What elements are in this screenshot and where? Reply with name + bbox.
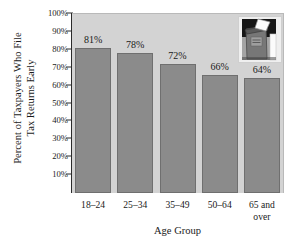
x-axis-category-label-line: over [237,211,287,223]
y-axis-tick-label: 100% [34,9,68,18]
x-axis-category-label-line: 65 and [237,199,287,211]
x-axis-title: Age Group [72,225,283,237]
bar-value-label: 78% [114,39,156,50]
y-axis-tick-label: 20% [34,152,68,161]
bar [202,75,238,193]
x-axis-category-label: 65 andover [237,199,287,222]
y-axis-tick-label: 90% [34,26,68,35]
y-axis-tick-label: 30% [34,134,68,143]
bar [75,48,111,193]
bar-value-label: 72% [156,50,198,61]
y-axis-tick-label: 10% [34,170,68,179]
mailbox-photo [238,16,282,63]
y-axis-tick-label: 70% [34,62,68,71]
bar [160,64,196,193]
y-axis-tick-label: 50% [34,98,68,107]
bar-value-label: 66% [199,61,241,72]
bar [117,53,153,193]
bar-chart-figure: Percent of Taxpayers Who File Tax Return… [0,0,293,245]
y-axis-tick-labels: 10%20%30%40%50%60%70%80%90%100% [34,0,68,245]
y-axis-tick-label: 40% [34,116,68,125]
y-axis-title-line-1: Percent of Taxpayers Who File [11,5,24,191]
y-axis-tick-label: 60% [34,80,68,89]
bar-value-label: 64% [241,64,283,75]
mailbox-icon [239,17,281,62]
bar [244,78,280,193]
y-axis-tick-label: 80% [34,44,68,53]
bar-value-label: 81% [72,34,114,45]
